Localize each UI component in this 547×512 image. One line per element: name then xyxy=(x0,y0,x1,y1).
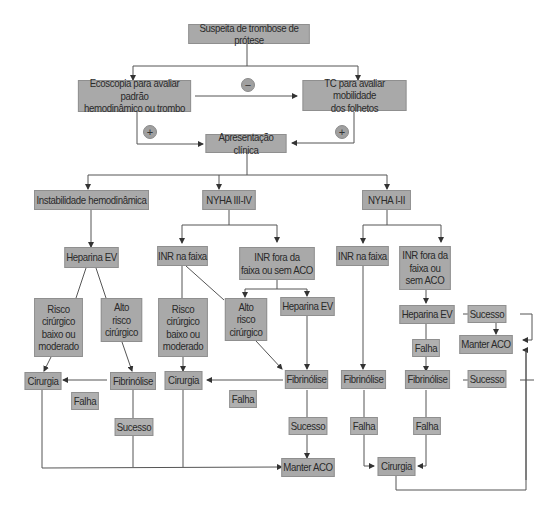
node-fibrinolise-mid: Fibrinólise xyxy=(285,370,328,389)
node-manter-aco-right: Manter ACO xyxy=(459,335,512,354)
negative-marker: − xyxy=(241,78,255,92)
node-inr-fora-mid: INR fora da faixa ou sem ACO xyxy=(239,247,314,280)
positive-marker-right: + xyxy=(335,125,349,139)
node-heparina-ev-left: Heparina EV xyxy=(64,247,118,268)
node-cirurgia-mid: Cirurgia xyxy=(165,371,203,390)
node-cirurgia-left: Cirurgia xyxy=(25,372,62,390)
node-cirurgia-right: Cirurgia xyxy=(378,457,416,476)
node-risco-baixo-mid: Risco cirúrgico baixo ou moderado xyxy=(158,298,208,357)
node-risco-baixo-left: Risco cirúrgico baixo ou moderado xyxy=(34,298,83,357)
node-inr-na-faixa-right: INR na faixa xyxy=(336,246,388,266)
label-sucesso-right-a: Sucesso xyxy=(468,305,507,323)
node-tc: TC para avaliar mobilidade dos folhetos xyxy=(303,80,407,111)
node-nyha-i-ii: NYHA I-II xyxy=(362,190,411,210)
node-inr-fora-right: INR fora da faixa ou sem ACO xyxy=(399,246,451,290)
node-manter-aco-bottom: Manter ACO xyxy=(281,458,334,477)
node-inr-na-faixa-mid: INR na faixa xyxy=(157,246,208,266)
node-ecoscopia: Ecoscopia para avaliar padrão hemodinâmi… xyxy=(78,80,191,112)
node-fibrinolise-right-b: Fibrinólise xyxy=(405,370,450,389)
label-sucesso-right-b: Sucesso xyxy=(468,370,507,388)
flowchart-canvas: Suspeita de trombose de prótese Ecoscopi… xyxy=(0,0,547,512)
label-falha-right-a: Falha xyxy=(412,339,440,357)
node-alto-risco-left: Alto risco cirúrgico xyxy=(101,298,142,342)
node-alto-risco-mid: Alto risco cirúrgico xyxy=(225,298,267,341)
label-falha-right-c: Falha xyxy=(413,417,441,435)
node-fibrinolise-right-a: Fibrinólise xyxy=(341,370,386,389)
node-fibrinolise-left: Fibrinólise xyxy=(110,372,156,390)
node-suspeita: Suspeita de trombose de prótese xyxy=(188,24,309,44)
label-falha-mid: Falha xyxy=(229,390,257,408)
node-heparina-ev-mid: Heparina EV xyxy=(280,297,334,316)
label-falha-left: Falha xyxy=(71,392,99,410)
label-falha-right-b: Falha xyxy=(350,417,378,435)
label-sucesso-mid: Sucesso xyxy=(289,417,328,435)
node-apresentacao-clinica: Apresentação clínica xyxy=(206,134,287,153)
node-nyha-iii-iv: NYHA III-IV xyxy=(202,190,255,210)
label-sucesso-left: Sucesso xyxy=(115,418,154,436)
node-instabilidade-hemodinamica: Instabilidade hemodinâmica xyxy=(34,190,149,210)
node-heparina-ev-right: Heparina EV xyxy=(399,305,454,324)
positive-marker-left: + xyxy=(143,125,157,139)
